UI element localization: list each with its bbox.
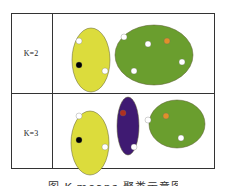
data-point [178, 135, 184, 141]
k2-clusters [72, 25, 193, 92]
data-point [120, 110, 126, 116]
k3-clusters [71, 97, 205, 175]
data-point [164, 38, 170, 44]
cluster-yellow-ellipse [71, 111, 109, 175]
data-point [131, 68, 137, 74]
data-point [145, 41, 151, 47]
data-point [145, 117, 151, 123]
row-label-k2: K=2 [24, 49, 38, 58]
data-point [102, 144, 108, 150]
row-k2: K=2 [24, 25, 193, 92]
cluster-yellow-ellipse [72, 28, 110, 92]
figure-caption: 图 K-means 聚类示意图 [48, 178, 178, 186]
data-point [76, 62, 82, 68]
data-point [76, 113, 82, 119]
cluster-green-ellipse [115, 25, 193, 85]
data-point [163, 113, 169, 119]
row-k3: K=3 [24, 97, 205, 175]
data-point [121, 34, 127, 40]
data-point [179, 59, 185, 65]
data-point [131, 144, 137, 150]
data-point [76, 137, 82, 143]
data-point [76, 38, 82, 44]
clustering-figure: K=2 K=3 图 K-means 聚类示意图 [0, 0, 225, 186]
data-point [102, 68, 108, 74]
clustering-diagram: K=2 K=3 [0, 0, 225, 186]
row-label-k3: K=3 [24, 129, 38, 138]
cluster-green-ellipse [149, 100, 205, 148]
